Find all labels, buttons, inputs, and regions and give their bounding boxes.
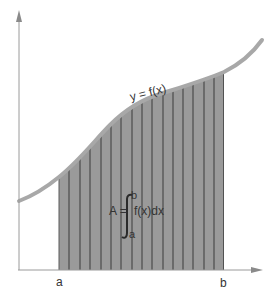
y-axis-arrow-icon bbox=[16, 10, 22, 22]
x-label-a: a bbox=[56, 275, 63, 289]
formula-integrand: f(x)dx bbox=[134, 204, 164, 218]
x-label-b: b bbox=[220, 276, 227, 290]
integral-diagram: y = f(x) A = b f(x)dx a a b bbox=[0, 0, 277, 299]
formula-upper-limit: b bbox=[131, 189, 137, 201]
x-axis-arrow-icon bbox=[251, 267, 263, 273]
formula-lower-limit: a bbox=[129, 228, 136, 240]
formula-lhs: A = bbox=[109, 204, 127, 218]
